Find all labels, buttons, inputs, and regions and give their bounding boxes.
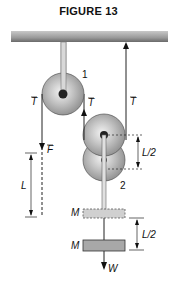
pulley-2-label: 2 [120,180,126,191]
mass-final [83,240,125,251]
mass-final-label: M [71,240,80,251]
mass-initial [83,209,125,218]
arrow-down-force-icon [39,143,45,150]
mass-initial-label: M [71,207,80,218]
length-l-label: L [21,180,27,191]
length-l-half-lower-label: L/2 [142,229,156,240]
weight-label: W [108,263,119,274]
tension-left-label: T [31,96,38,107]
ceiling-bar [11,31,168,42]
arrow-down-weight-icon [101,262,107,270]
arrow-up-right-icon [123,42,129,49]
length-l-half-upper-label: L/2 [142,147,156,158]
arrow-up-middle-icon [81,109,87,116]
force-label: F [47,144,54,155]
pulley-1-axle [59,90,68,99]
tension-middle-label: T [88,97,95,108]
pulley-2-rod [102,135,106,216]
tension-right-label: T [130,96,137,107]
pulley-1-label: 1 [82,69,88,80]
pulley-diagram: 1 2 T T T F L L/2 L/2 M M W [0,0,177,287]
